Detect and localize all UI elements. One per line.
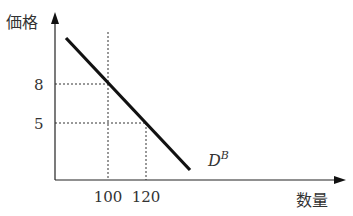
x-tick-100: 100 xyxy=(94,188,123,206)
x-axis-label: 数量 xyxy=(296,191,328,210)
x-axis-arrow-icon xyxy=(334,176,346,184)
y-tick-8: 8 xyxy=(34,76,44,94)
x-tick-120: 120 xyxy=(132,188,161,206)
curve-label-sup: B xyxy=(220,149,229,162)
y-axis-label: 価格 xyxy=(6,13,38,32)
demand-chart: 価格 数量 8 5 100 120 DB xyxy=(0,0,353,216)
curve-label-main: D xyxy=(207,151,221,170)
y-axis-arrow-icon xyxy=(51,12,59,24)
curve-label: DB xyxy=(207,149,229,170)
y-tick-5: 5 xyxy=(34,115,44,133)
demand-curve xyxy=(66,38,190,170)
